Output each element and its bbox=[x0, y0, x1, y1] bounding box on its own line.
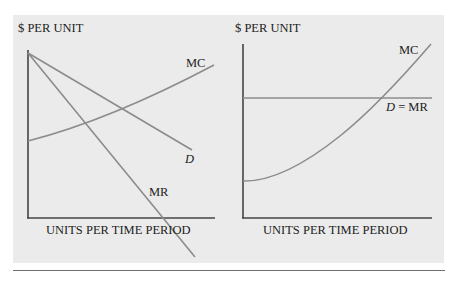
left-x-axis-label: UNITS PER TIME PERIOD bbox=[46, 224, 191, 237]
left-demand-line bbox=[28, 53, 192, 150]
right-y-axis-label: $ PER UNIT bbox=[235, 22, 300, 35]
right-mr-label-text: = MR bbox=[395, 100, 428, 114]
left-demand-label-text: D bbox=[185, 152, 194, 166]
left-mr-label: MR bbox=[149, 186, 168, 199]
right-x-axis-label: UNITS PER TIME PERIOD bbox=[263, 224, 408, 237]
right-demand-mr-label: D = MR bbox=[386, 101, 428, 114]
bottom-rule bbox=[13, 270, 445, 271]
right-graph bbox=[242, 44, 432, 219]
left-demand-label: D bbox=[185, 153, 194, 166]
left-mc-label: MC bbox=[186, 57, 205, 70]
right-mc-label: MC bbox=[399, 44, 418, 57]
left-y-axis-label: $ PER UNIT bbox=[18, 22, 83, 35]
diagram-canvas bbox=[0, 0, 454, 281]
left-mc-curve bbox=[28, 65, 214, 141]
right-demand-label-text: D bbox=[386, 100, 395, 114]
